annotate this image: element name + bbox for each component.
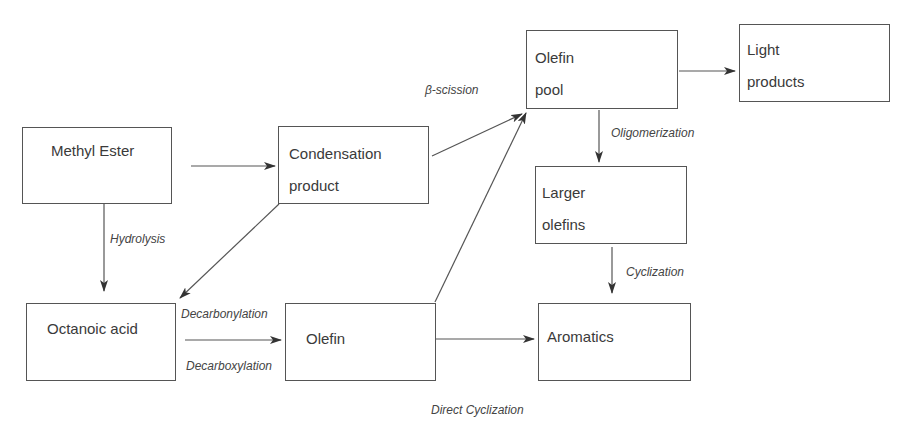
node-label-line-1: Condensation xyxy=(289,145,382,163)
node-larger-olefins: Larger olefins xyxy=(535,166,687,244)
node-label: Olefin xyxy=(306,330,345,348)
node-aromatics: Aromatics xyxy=(538,303,691,381)
node-label-line-1: Light xyxy=(747,41,780,59)
arrow-olefin-to-olefin-pool xyxy=(435,113,526,302)
node-label-line-2: pool xyxy=(535,81,563,99)
node-condensation-product: Condensation product xyxy=(278,126,429,204)
node-label-line-1: Olefin xyxy=(535,49,574,67)
node-light-products: Light products xyxy=(739,24,890,102)
node-octanoic-acid: Octanoic acid xyxy=(26,303,176,381)
node-label-line-1: Larger xyxy=(542,184,585,202)
reaction-pathway-diagram: Methyl Ester Condensation product Olefin… xyxy=(0,0,910,429)
edge-label-decarboxylation: Decarboxylation xyxy=(186,359,272,373)
arrow-condensation-to-octanoic xyxy=(180,204,279,298)
node-label: Aromatics xyxy=(547,328,614,346)
node-olefin: Olefin xyxy=(285,303,436,381)
edge-label-hydrolysis: Hydrolysis xyxy=(110,232,165,246)
node-olefin-pool: Olefin pool xyxy=(526,30,678,109)
node-label-line-2: olefins xyxy=(542,216,585,234)
edge-label-decarbonylation: Decarbonylation xyxy=(181,307,268,321)
node-label: Octanoic acid xyxy=(47,320,138,338)
edge-label-direct-cyclization: Direct Cyclization xyxy=(431,403,524,417)
node-methyl-ester: Methyl Ester xyxy=(22,127,172,204)
node-label-line-2: product xyxy=(289,177,339,195)
edge-label-cyclization: Cyclization xyxy=(626,265,684,279)
node-label-line-2: products xyxy=(747,73,805,91)
edge-label-oligomerization: Oligomerization xyxy=(611,126,694,140)
node-label: Methyl Ester xyxy=(51,142,134,160)
edge-label-beta-scission: β-scission xyxy=(425,83,479,97)
